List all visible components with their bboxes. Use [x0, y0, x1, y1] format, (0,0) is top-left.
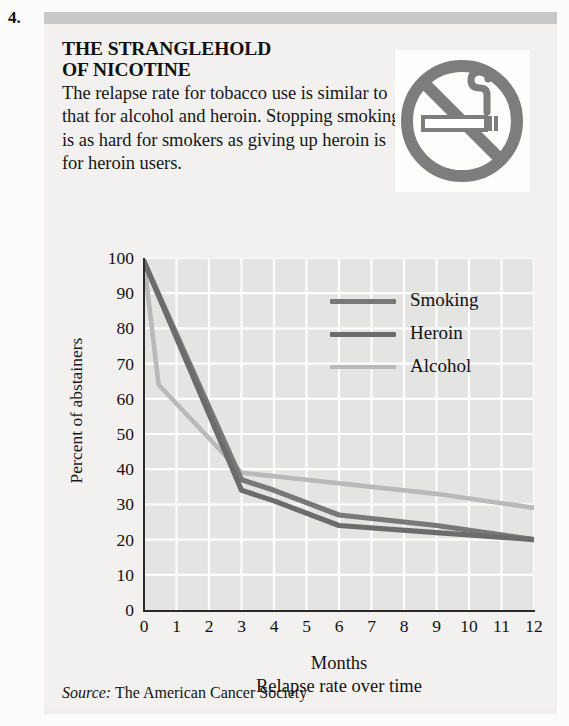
x-tick-label: 1 [162, 618, 192, 636]
legend-item-smoking[interactable]: Smoking [330, 288, 530, 321]
legend-swatch-smoking [330, 299, 396, 304]
y-axis-line [143, 258, 145, 611]
panel-top-bar [44, 12, 557, 24]
x-tick-label: 11 [487, 618, 517, 636]
x-tick-label: 0 [129, 618, 159, 636]
y-tick-label: 40 [90, 461, 134, 479]
panel-footer-rule [44, 708, 557, 714]
y-axis-label: Percent of abstainers [66, 301, 87, 521]
figure-page: 4. THE STRANGLEHOLD OF NICOTINE The rela… [0, 0, 569, 726]
x-tick-label: 3 [227, 618, 257, 636]
y-tick-label: 90 [90, 285, 134, 303]
y-tick-label: 30 [90, 496, 134, 514]
source-line: Source: The American Cancer Society [62, 684, 307, 702]
headline-line-2: OF NICOTINE [62, 59, 392, 80]
y-tick-label: 60 [90, 391, 134, 409]
y-tick-label: 100 [90, 250, 134, 268]
x-tick-label: 4 [259, 618, 289, 636]
legend-label-smoking: Smoking [410, 288, 479, 312]
y-tick-label: 0 [90, 602, 134, 620]
legend-item-alcohol[interactable]: Alcohol [330, 354, 530, 387]
y-tick-label: 70 [90, 356, 134, 374]
relapse-rate-chart: Percent of abstainers 010203040506070809… [44, 240, 557, 640]
legend-label-heroin: Heroin [410, 321, 463, 345]
x-tick-label: 12 [519, 618, 549, 636]
x-tick-label: 6 [324, 618, 354, 636]
x-tick-label: 7 [357, 618, 387, 636]
source-label: Source: [62, 684, 111, 701]
item-number: 4. [8, 8, 21, 28]
y-tick-label: 80 [90, 320, 134, 338]
page-title: THE STRANGLEHOLD OF NICOTINE [62, 38, 392, 80]
y-tick-label: 50 [90, 426, 134, 444]
headline-line-1: THE STRANGLEHOLD [62, 38, 392, 59]
legend-item-heroin[interactable]: Heroin [330, 321, 530, 354]
y-tick-label: 20 [90, 532, 134, 550]
source-text: The American Cancer Society [111, 684, 307, 701]
x-axis-line [143, 610, 535, 612]
y-tick-label: 10 [90, 567, 134, 585]
x-tick-label: 5 [292, 618, 322, 636]
x-tick-label: 10 [454, 618, 484, 636]
figure-panel: THE STRANGLEHOLD OF NICOTINE The relapse… [44, 12, 557, 714]
x-tick-label: 9 [422, 618, 452, 636]
x-axis-label: Months [144, 653, 534, 674]
no-smoking-sign-box [395, 50, 530, 192]
x-tick-label: 8 [389, 618, 419, 636]
description-text: The relapse rate for tobacco use is simi… [62, 82, 402, 176]
legend-label-alcohol: Alcohol [410, 354, 471, 378]
legend-swatch-alcohol [330, 365, 396, 369]
legend-swatch-heroin [330, 332, 396, 337]
chart-legend: SmokingHeroinAlcohol [330, 288, 530, 387]
no-smoking-icon [395, 50, 530, 192]
x-tick-label: 2 [194, 618, 224, 636]
